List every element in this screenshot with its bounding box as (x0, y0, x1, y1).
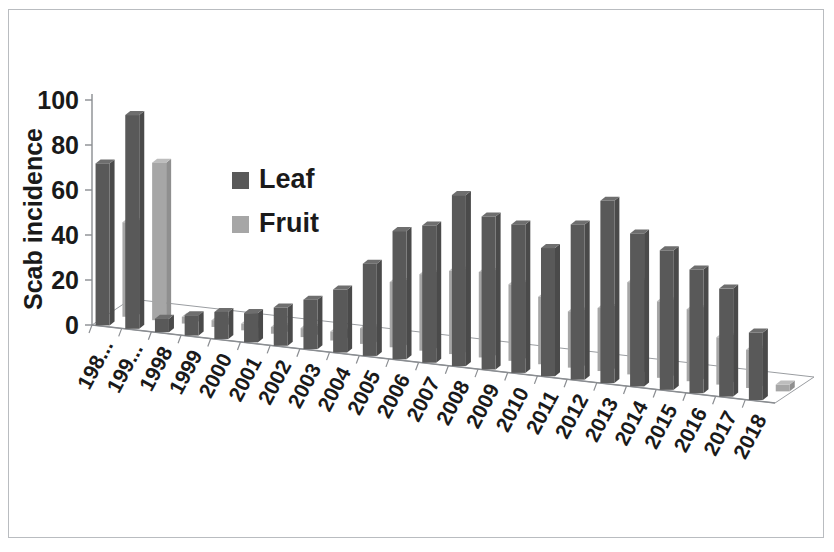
bar-front-face (96, 163, 110, 325)
bar-leaf-2001 (244, 309, 263, 342)
bar-leaf-2003 (303, 296, 322, 350)
bar-leaf-2014 (630, 229, 649, 386)
bar-front-face (719, 289, 733, 397)
x-axis-tick (594, 383, 597, 391)
y-axis-title: Scab incidence (19, 128, 47, 310)
bar-leaf-2016 (689, 265, 708, 393)
scab-incidence-3d-bar-chart: 100806040200 198...199...199819992000200… (0, 0, 834, 552)
y-axis-title-group: Scab incidence (19, 128, 47, 310)
legend-swatch-fruit (232, 216, 249, 233)
bar-leaf-1999 (185, 311, 204, 335)
bar-leaf-2013 (600, 197, 619, 383)
x-axis-tick (267, 345, 270, 353)
bar-side-face (496, 212, 501, 369)
chart-legend: LeafFruit (232, 164, 319, 238)
bar-front-face (571, 224, 585, 379)
y-tick-label: 60 (51, 176, 79, 204)
bar-side-face (199, 311, 204, 335)
bar-front-face (541, 248, 555, 376)
bar-leaf-2007 (422, 221, 441, 362)
bar-side-face (166, 159, 171, 321)
x-axis-tick (653, 389, 656, 397)
x-axis-tick (713, 396, 716, 404)
x-axis-tick (237, 342, 240, 350)
bar-side-face (525, 220, 530, 373)
bar-side-face (258, 309, 263, 342)
y-tick-label: 100 (37, 86, 79, 114)
bar-side-face (407, 227, 412, 359)
bar-leaf-2015 (660, 246, 679, 390)
y-tick-label: 80 (51, 131, 79, 159)
x-axis-tick (297, 349, 300, 357)
bar-front-face (274, 308, 288, 346)
bar-side-face (139, 111, 144, 329)
bar-leaf-2006 (393, 227, 412, 359)
bar-leaf-2000 (214, 308, 233, 339)
x-axis-tick (356, 356, 359, 364)
bar-front-face (776, 385, 790, 392)
x-axis-tick (178, 335, 181, 343)
bar-front-face (422, 225, 436, 362)
chart-canvas: 100806040200 198...199...199819992000200… (0, 0, 834, 552)
y-tick-label: 0 (65, 311, 79, 339)
bar-front-face (511, 224, 525, 373)
bar-front-face (244, 313, 258, 342)
x-axis-tick (742, 400, 745, 408)
x-axis-tick (624, 386, 627, 394)
y-tick-label: 40 (51, 221, 79, 249)
bar-front-face (152, 163, 166, 321)
bar-side-face (585, 220, 590, 379)
bar-front-face (689, 269, 703, 393)
bar-front-face (333, 290, 347, 353)
bar-leaf-1998 (155, 315, 174, 333)
x-axis-tick (683, 393, 686, 401)
bar-leaf-2010 (511, 220, 530, 373)
bar-leaf-198... (96, 159, 115, 325)
legend-item-fruit: Fruit (232, 208, 319, 238)
x-axis-tick (327, 352, 330, 360)
bar-front-face (303, 300, 317, 350)
bar-leaf-199... (125, 111, 144, 329)
bar-leaf-2004 (333, 286, 352, 353)
bar-side-face (614, 197, 619, 383)
bar-leaf-2008 (452, 191, 471, 366)
bar-front-face (185, 315, 199, 335)
x-axis-tick (534, 376, 537, 384)
x-axis-tick (416, 362, 419, 370)
legend-label-fruit: Fruit (259, 208, 319, 238)
x-axis-tick (89, 325, 92, 333)
x-axis-tick (148, 332, 151, 340)
bar-side-face (228, 308, 233, 339)
bar-leaf-2012 (571, 220, 590, 379)
bar-front-face (214, 312, 228, 339)
bar-leaf-2005 (363, 260, 382, 356)
bar-front-face (125, 115, 139, 329)
legend-item-leaf: Leaf (232, 164, 316, 194)
bar-fruit-199... (152, 159, 171, 321)
x-axis-tick (445, 366, 448, 374)
bar-leaf-2009 (482, 212, 501, 369)
bar-side-face (763, 329, 768, 401)
bar-front-face (600, 201, 614, 383)
legend-label-leaf: Leaf (259, 164, 316, 194)
bar-side-face (703, 265, 708, 393)
bar-leaf-2011 (541, 244, 560, 376)
bar-side-face (436, 221, 441, 362)
x-axis-tick (505, 372, 508, 380)
bar-side-face (644, 229, 649, 386)
bar-front-face (749, 333, 763, 401)
bar-side-face (110, 159, 115, 325)
bar-front-face (660, 250, 674, 390)
bar-side-face (347, 286, 352, 353)
x-axis-tick (208, 339, 211, 347)
x-axis-tick (119, 328, 122, 336)
x-axis-tick (564, 379, 567, 387)
bar-leaf-2002 (274, 304, 293, 346)
x-axis-tick (386, 359, 389, 367)
bar-front-face (482, 216, 496, 369)
bar-side-face (555, 244, 560, 376)
bar-side-face (466, 191, 471, 366)
bar-front-face (630, 233, 644, 386)
bar-leaf-2017 (719, 285, 738, 397)
bar-side-face (733, 285, 738, 397)
